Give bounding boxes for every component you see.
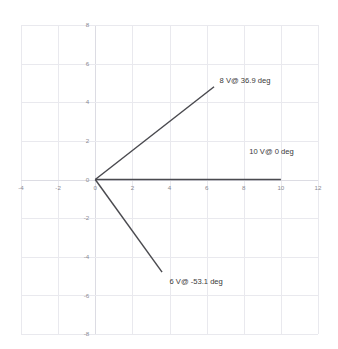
x-tick-label: 0 <box>94 184 98 191</box>
y-tick-label: 6 <box>86 60 90 67</box>
vector-annotation-label: 10 V@ 0 deg <box>249 147 293 156</box>
x-tick-label: -4 <box>18 184 24 191</box>
x-tick-label: 6 <box>205 184 209 191</box>
y-tick-label: 4 <box>86 98 90 105</box>
plot-area: -4-2024681012 86420-2-4-6-8 8 V@ 36.9 de… <box>0 0 338 349</box>
x-tick-label: -2 <box>55 184 61 191</box>
x-tick-label: 10 <box>277 184 284 191</box>
x-tick-label: 8 <box>242 184 246 191</box>
y-tick-label: -4 <box>84 253 90 260</box>
vectors-group <box>95 87 281 272</box>
y-tick-label: 0 <box>86 176 90 183</box>
y-tick-label: -6 <box>84 292 90 299</box>
x-tick-label: 12 <box>315 184 322 191</box>
y-tick-label: 8 <box>86 21 90 28</box>
vector-annotation-label: 6 V@ -53.1 deg <box>170 277 223 286</box>
phasor-diagram-chart: -4-2024681012 86420-2-4-6-8 8 V@ 36.9 de… <box>0 0 338 349</box>
y-tick-label: -2 <box>84 214 90 221</box>
y-axis-tick-labels: 86420-2-4-6-8 <box>84 21 90 337</box>
y-tick-label: -8 <box>84 330 90 337</box>
x-tick-label: 2 <box>131 184 135 191</box>
x-axis-tick-labels: -4-2024681012 <box>18 184 322 191</box>
vector-annotation-label: 8 V@ 36.9 deg <box>220 76 271 85</box>
vector-line <box>95 87 214 180</box>
x-tick-label: 4 <box>168 184 172 191</box>
y-tick-label: 2 <box>86 137 90 144</box>
vector-line <box>95 180 162 273</box>
